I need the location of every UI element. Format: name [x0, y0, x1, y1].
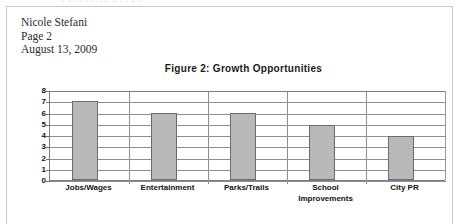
- x-axis-labels: Jobs/WagesEntertainmentParks/TrailsSchoo…: [49, 183, 445, 211]
- scanned-page: Nicole Stefani Page 2 August 13, 2009 Fi…: [6, 6, 453, 224]
- x-axis-category-label: Entertainment: [128, 183, 207, 194]
- y-axis-tick-mark: [46, 159, 50, 160]
- y-axis-tick-label: 1: [33, 166, 46, 174]
- bar: [72, 101, 98, 180]
- chart-title: Figure 2: Growth Opportunities: [7, 63, 452, 74]
- y-axis-tick-label: 5: [33, 121, 46, 129]
- bar: [230, 113, 256, 181]
- bar-chart: 012345678 Jobs/WagesEntertainmentParks/T…: [33, 91, 445, 191]
- y-axis-tick-label: 2: [33, 155, 46, 163]
- bar: [309, 125, 335, 180]
- y-axis-tick-label: 3: [33, 143, 46, 151]
- clipped-header-artifact: CONFIDENTIAL: [62, 0, 302, 3]
- gridline: [50, 102, 446, 103]
- x-axis-category-label-line: City PR: [365, 183, 444, 194]
- bar: [388, 136, 414, 180]
- y-axis-tick-label: 8: [33, 87, 46, 95]
- y-axis-tick-label: 4: [33, 132, 46, 140]
- letterhead-line-name: Nicole Stefani: [21, 16, 97, 30]
- category-separator: [366, 91, 367, 184]
- x-axis-category-label: SchoolImprovements: [286, 183, 365, 204]
- y-axis-tick-label: 0: [33, 177, 46, 185]
- letterhead-block: Nicole Stefani Page 2 August 13, 2009: [21, 16, 97, 57]
- x-axis-category-label: Jobs/Wages: [49, 183, 128, 194]
- letterhead-line-page: Page 2: [21, 30, 97, 44]
- category-separator: [208, 91, 209, 184]
- category-separator: [129, 91, 130, 184]
- x-axis-category-label: Parks/Trails: [207, 183, 286, 194]
- y-axis-tick-mark: [46, 125, 50, 126]
- y-axis-tick-label: 6: [33, 110, 46, 118]
- x-axis-category-label-line: School: [286, 183, 365, 194]
- y-axis-tick-mark: [46, 170, 50, 171]
- plot-area: [49, 91, 445, 181]
- letterhead-line-date: August 13, 2009: [21, 43, 97, 57]
- x-axis-category-label: City PR: [365, 183, 444, 194]
- y-axis-tick-mark: [46, 91, 50, 92]
- y-axis-tick-label: 7: [33, 98, 46, 106]
- x-axis-category-label-line: Parks/Trails: [207, 183, 286, 194]
- gridline: [50, 181, 446, 182]
- x-axis-category-label-line: Jobs/Wages: [49, 183, 128, 194]
- x-axis-category-label-line: Improvements: [286, 194, 365, 205]
- y-axis-tick-mark: [46, 136, 50, 137]
- category-separator: [287, 91, 288, 184]
- y-axis-labels: 012345678: [33, 91, 46, 181]
- y-axis-tick-mark: [46, 181, 50, 182]
- y-axis-tick-mark: [46, 114, 50, 115]
- y-axis-tick-mark: [46, 147, 50, 148]
- y-axis-tick-mark: [46, 102, 50, 103]
- x-axis-category-label-line: Entertainment: [128, 183, 207, 194]
- plot-top-border: [50, 91, 446, 92]
- bar: [151, 113, 177, 181]
